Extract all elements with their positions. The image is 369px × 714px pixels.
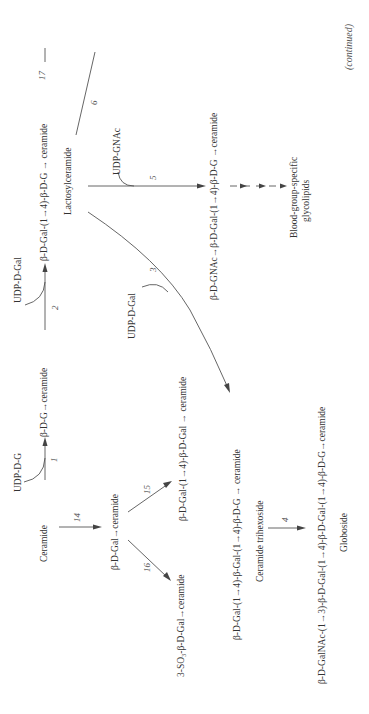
arrow-reaction-4 (268, 526, 306, 531)
node-lactosylceramide-name: Lactosylceramide (64, 147, 74, 215)
node-ceramide: Ceramide (40, 525, 50, 562)
reaction-number-4: 4 (280, 518, 290, 523)
reaction-number-5: 5 (148, 176, 158, 181)
node-gnac-lactosylceramide: β-D-GNAc→β-D-Gal-(1→4)-β-D-G →ceramide (210, 113, 220, 300)
node-galactosylceramide: β-D-Gal→ceramide (111, 494, 121, 570)
arrow-reaction-1 (24, 437, 48, 482)
node-ceramide-trihexoside-formula: β-D-Gal-(1→4)-β-Gal-(1→4)-β-D-G → cerami… (233, 449, 243, 640)
reaction-number-2: 2 (50, 306, 60, 311)
node-globoside-name: Globoside (340, 513, 350, 552)
arrow-reaction-14 (59, 525, 102, 530)
reaction-number-16: 16 (142, 563, 152, 572)
node-globoside-formula: β-D-GalNAc-(1→3)-β-D-Gal-(1→4)-β-D-Gal-(… (318, 407, 328, 684)
arrow-reaction-2 (25, 263, 48, 330)
node-sulfatide: 3-SO₃-β-D-Gal→ceramide (177, 574, 187, 677)
node-udp-galactose-top: UDP-D-Gal (14, 257, 24, 303)
node-glucosylceramide: β-D-G→ceramide (40, 368, 50, 437)
node-udp-gnac: UDP-GNAc (113, 128, 123, 175)
dashed-arrows-blood-group (230, 184, 287, 189)
reaction-number-17: 17 (37, 71, 47, 80)
node-blood-group-line2: glycolipids (302, 180, 312, 222)
arrow-reaction-16 (128, 540, 171, 581)
line-reaction-6 (76, 52, 95, 135)
node-udp-galactose-mid: UDP-D-Gal (128, 293, 138, 339)
continued-note: (continued) (343, 24, 354, 70)
node-blood-group-line1: Blood-group-specific (290, 157, 300, 238)
reaction-number-3: 3 (148, 268, 158, 273)
node-udp-glucose: UDP-D-G (14, 453, 24, 492)
node-lactosylceramide-formula: β-D-Gal-(1→4)-β-D-G → ceramide (40, 124, 50, 261)
arrow-reaction-5 (88, 172, 206, 189)
node-digalactosylceramide: β-D-Gal-(1→4)-β-D-Gal → ceramide (179, 377, 189, 521)
reaction-number-6: 6 (89, 101, 99, 106)
reaction-number-15: 15 (142, 485, 152, 494)
reaction-number-14: 14 (72, 513, 82, 522)
node-ceramide-trihexoside-name: Ceramide trihexoside (256, 500, 266, 582)
reaction-number-1: 1 (49, 458, 59, 463)
